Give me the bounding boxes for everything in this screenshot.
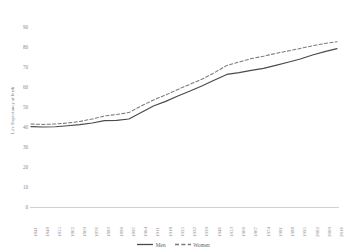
legend-swatch-men: [137, 242, 153, 247]
x-tick-1981: 1981: [278, 227, 283, 237]
life-expectancy-line-chart: Life Expectancy at birth 908070605040302…: [0, 0, 347, 250]
x-tick-1862: 1862: [70, 227, 75, 237]
x-tick-1848: 1848: [45, 227, 50, 237]
x-tick-1953: 1953: [229, 227, 234, 237]
legend-label-women: Women: [193, 242, 210, 248]
x-axis-tick-labels: 1841184818551862186918761883189018971904…: [0, 207, 347, 241]
x-tick-1960: 1960: [241, 227, 246, 237]
legend-label-men: Men: [156, 242, 166, 248]
x-tick-1897: 1897: [131, 227, 136, 237]
legend-swatch-women: [175, 242, 191, 247]
x-tick-1841: 1841: [33, 227, 38, 237]
x-tick-1967: 1967: [253, 227, 258, 237]
x-tick-1883: 1883: [106, 227, 111, 237]
x-tick-1869: 1869: [82, 227, 87, 237]
x-tick-2016: 2016: [339, 227, 344, 237]
x-tick-2009: 2009: [327, 227, 332, 237]
x-tick-1995: 1995: [302, 227, 307, 237]
series-line-women: [31, 42, 337, 125]
legend-item-women: Women: [175, 242, 210, 248]
x-tick-1939: 1939: [204, 227, 209, 237]
legend-item-men: Men: [137, 242, 165, 248]
chart-legend: Men Women: [0, 239, 347, 250]
x-tick-1925: 1925: [180, 227, 185, 237]
x-tick-1918: 1918: [168, 227, 173, 237]
x-tick-1946: 1946: [217, 227, 222, 237]
x-tick-2002: 2002: [315, 227, 320, 237]
x-tick-1988: 1988: [290, 227, 295, 237]
x-tick-1876: 1876: [94, 227, 99, 237]
x-tick-1911: 1911: [155, 227, 160, 237]
series-line-men: [31, 49, 337, 127]
x-tick-1904: 1904: [143, 227, 148, 237]
x-tick-1932: 1932: [192, 227, 197, 237]
x-tick-1890: 1890: [119, 227, 124, 237]
x-tick-1974: 1974: [266, 227, 271, 237]
x-tick-1855: 1855: [57, 227, 62, 237]
